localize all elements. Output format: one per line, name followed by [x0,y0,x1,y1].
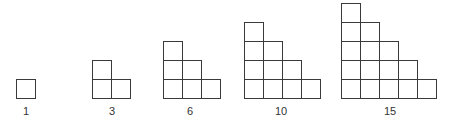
square-cell [282,79,302,99]
square-cell [301,79,321,99]
square-cell [341,3,361,23]
square-cell [92,79,112,99]
square-cell [379,41,399,61]
figure-count-label: 15 [384,105,396,117]
triangular-numbers-diagram: 1361015 [0,0,454,120]
square-cell [398,79,418,99]
square-cell [163,60,183,80]
figure-count-label: 1 [23,105,29,117]
square-cell [182,60,202,80]
square-cell [360,60,380,80]
square-cell [341,79,361,99]
square-cell [360,79,380,99]
square-cell [398,60,418,80]
square-cell [16,79,36,99]
square-cell [360,22,380,42]
square-cell [201,79,221,99]
square-cell [244,22,264,42]
square-cell [379,79,399,99]
square-cell [341,41,361,61]
square-cell [163,79,183,99]
square-cell [244,79,264,99]
square-cell [111,79,131,99]
square-cell [282,60,302,80]
figure-count-label: 3 [109,105,115,117]
square-cell [360,41,380,61]
figure-count-label: 10 [275,105,287,117]
square-cell [92,60,112,80]
square-cell [379,60,399,80]
square-cell [163,41,183,61]
square-cell [417,79,437,99]
square-cell [244,60,264,80]
square-cell [244,41,264,61]
square-cell [341,22,361,42]
square-cell [263,79,283,99]
square-cell [182,79,202,99]
square-cell [263,60,283,80]
square-cell [341,60,361,80]
figure-count-label: 6 [187,105,193,117]
square-cell [263,41,283,61]
